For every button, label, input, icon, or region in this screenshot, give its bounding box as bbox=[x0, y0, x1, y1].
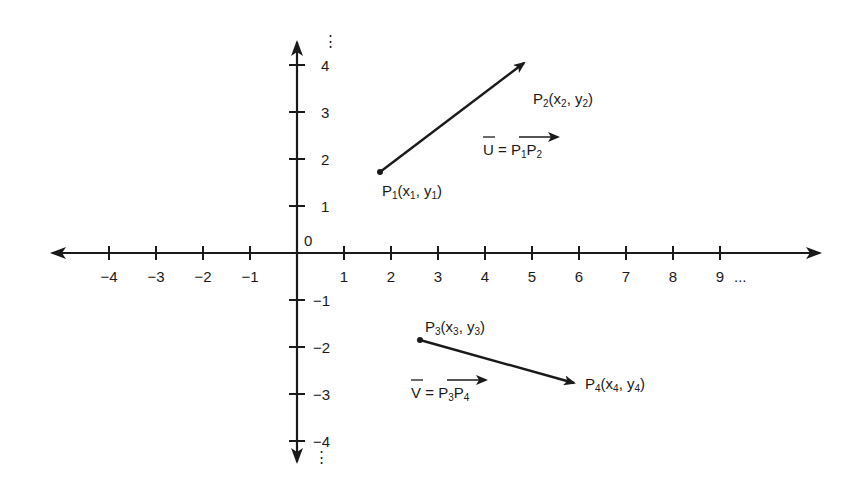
x-tick-label: −1 bbox=[241, 268, 258, 285]
x-tick-label: 5 bbox=[528, 268, 536, 285]
x-tick-label: 8 bbox=[669, 268, 677, 285]
y-axis-top-ellipsis: ⋮ bbox=[323, 32, 338, 49]
svg-text:V = P3P4: V = P3P4 bbox=[411, 384, 470, 403]
origin-label: 0 bbox=[304, 232, 312, 249]
x-tick-label: 6 bbox=[575, 268, 583, 285]
x-tick-label: −2 bbox=[194, 268, 211, 285]
y-tick-label: 3 bbox=[321, 104, 329, 121]
point-p3 bbox=[417, 337, 423, 343]
y-axis-bottom-ellipsis: ⋮ bbox=[314, 448, 329, 465]
y-tick-label: 2 bbox=[321, 151, 329, 168]
point-p1 bbox=[377, 169, 383, 175]
x-axis-ellipsis: ... bbox=[734, 268, 747, 285]
x-tick-label: 9 bbox=[716, 268, 724, 285]
y-tick-label: 1 bbox=[321, 198, 329, 215]
y-tick-label: −1 bbox=[313, 292, 330, 309]
equation-u: U = P1P2 bbox=[483, 137, 558, 160]
x-axis: −4−3−2−1123456789 ... bbox=[52, 246, 820, 285]
label-p2: P2(x2, y2) bbox=[533, 90, 593, 109]
x-tick-label: 2 bbox=[387, 268, 395, 285]
x-tick-label: 7 bbox=[622, 268, 630, 285]
label-p4: P4(x4, y4) bbox=[585, 375, 645, 394]
y-tick-label: −2 bbox=[313, 339, 330, 356]
vector-v: P3(x3, y3) P4(x4, y4) V = P3P4 bbox=[411, 318, 645, 403]
x-tick-label: 3 bbox=[434, 268, 442, 285]
x-axis-ticks: −4−3−2−1123456789 bbox=[100, 246, 724, 285]
vector-u: P1(x1, y1) P2(x2, y2) U = P1P2 bbox=[377, 63, 593, 201]
vector-v-arrow bbox=[420, 340, 574, 383]
svg-text:U = P1P2: U = P1P2 bbox=[483, 141, 543, 160]
coordinate-plane-diagram: −4−3−2−1123456789 ... 1234−1−2−3−4 ⋮ ⋮ 0… bbox=[0, 0, 856, 497]
y-tick-label: 4 bbox=[321, 57, 329, 74]
y-tick-label: −3 bbox=[313, 386, 330, 403]
label-p1: P1(x1, y1) bbox=[382, 182, 442, 201]
x-tick-label: −4 bbox=[100, 268, 117, 285]
x-tick-label: 1 bbox=[340, 268, 348, 285]
x-tick-label: 4 bbox=[481, 268, 489, 285]
x-tick-label: −3 bbox=[147, 268, 164, 285]
label-p3: P3(x3, y3) bbox=[425, 318, 485, 337]
y-axis: 1234−1−2−3−4 ⋮ ⋮ bbox=[289, 32, 338, 465]
equation-v: V = P3P4 bbox=[411, 380, 486, 403]
